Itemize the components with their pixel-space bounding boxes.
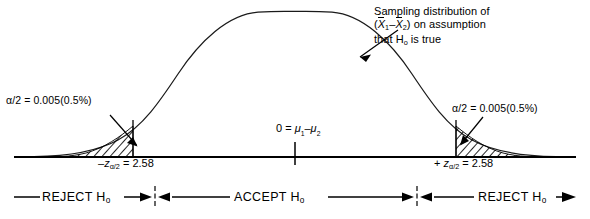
curve-annotation: Sampling distribution of (X1–X2) on assu…: [374, 5, 490, 47]
mean-label: 0 = μ1–μ2: [276, 122, 320, 138]
left-alpha-label: α/2 = 0.005(0.5%): [6, 94, 92, 106]
reject-region-label-right: REJECT Ho: [478, 190, 547, 206]
annotation-line-1: Sampling distribution of: [374, 5, 490, 18]
reject-region-label-left: REJECT Ho: [42, 190, 111, 206]
right-critical-value-label: + zα/2 = 2.58: [434, 157, 493, 172]
accept-region-label: ACCEPT Ho: [234, 190, 305, 206]
x-bar-2: X: [395, 18, 402, 31]
left-rejection-region: [36, 118, 136, 160]
annotation-line-3: that Ho is true: [374, 33, 490, 48]
right-alpha-label: α/2 = 0.005(0.5%): [452, 102, 538, 114]
x-bar-1: X: [378, 18, 385, 31]
left-critical-value-label: –zα/2 = 2.58: [98, 157, 154, 172]
annotation-line-2: (X1–X2) on assumption: [374, 18, 490, 33]
right-rejection-region: [452, 118, 554, 160]
